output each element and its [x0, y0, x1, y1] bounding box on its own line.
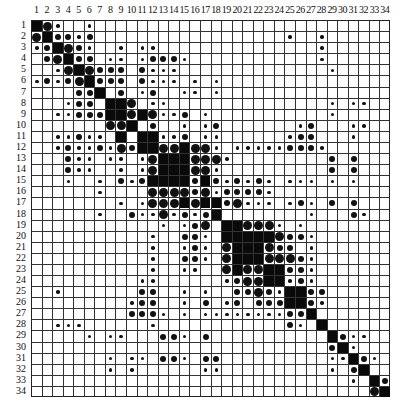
row-label: 17 [0, 196, 26, 207]
matrix-cell [190, 176, 200, 186]
matrix-cell [285, 287, 295, 297]
matrix-cell [159, 165, 169, 175]
matrix-cell [212, 88, 222, 98]
dot-marker-large [191, 166, 200, 175]
matrix-cell [169, 76, 179, 86]
matrix-cell [190, 198, 200, 208]
dot-marker-medium [203, 300, 209, 306]
matrix-cell [222, 265, 232, 275]
dot-marker-small [310, 180, 314, 184]
dot-marker-medium [213, 356, 219, 362]
dot-marker-small [204, 368, 208, 372]
matrix-cell [180, 132, 190, 142]
dot-marker-small [215, 168, 219, 172]
dot-marker-small [288, 35, 292, 39]
dot-marker-small [88, 157, 92, 161]
dot-marker-small [130, 357, 134, 361]
matrix-cell [148, 232, 158, 242]
matrix-cell [180, 254, 190, 264]
dot-marker-large [222, 243, 231, 252]
matrix-cell [201, 221, 211, 231]
matrix-cell [32, 43, 42, 53]
matrix-cell [169, 110, 179, 120]
dot-marker-large [254, 221, 263, 230]
matrix-cell [338, 331, 348, 341]
grid-line [32, 319, 389, 320]
matrix-cell [201, 354, 211, 364]
matrix-cell [212, 165, 222, 175]
matrix-cell [307, 198, 317, 208]
dot-marker-medium [329, 156, 335, 162]
dot-marker-small [257, 146, 261, 150]
column-label: 27 [306, 4, 317, 15]
matrix-cell [296, 232, 306, 242]
dot-marker-small [246, 146, 250, 150]
matrix-cell [275, 243, 285, 253]
matrix-cell [317, 43, 327, 53]
dot-marker-medium [287, 322, 293, 328]
matrix-cell [190, 265, 200, 275]
matrix-cell [64, 65, 74, 75]
dot-marker-small [267, 180, 271, 184]
dot-marker-small [56, 113, 60, 117]
dot-marker-large [265, 243, 274, 252]
matrix-cell [85, 132, 95, 142]
dot-marker-small [193, 91, 197, 95]
column-label: 20 [232, 4, 243, 15]
matrix-cell [106, 121, 116, 131]
matrix-cell [74, 65, 84, 75]
dot-marker-medium [150, 300, 156, 306]
matrix-cell [328, 99, 338, 109]
matrix-cell [159, 54, 169, 64]
matrix-cell [148, 76, 158, 86]
matrix-cell [307, 210, 317, 220]
matrix-cell [116, 43, 126, 53]
matrix-cell [359, 331, 369, 341]
dot-marker-small [215, 146, 219, 150]
column-label: 15 [179, 4, 190, 15]
dot-marker-small [267, 191, 271, 195]
dot-marker-medium [203, 356, 209, 362]
matrix-cell [233, 309, 243, 319]
dot-marker-small [109, 157, 113, 161]
matrix-cell [138, 354, 148, 364]
matrix-cell [349, 176, 359, 186]
dot-marker-medium [182, 256, 188, 262]
matrix-cell [159, 154, 169, 164]
dot-marker-small [77, 168, 81, 172]
dot-marker-small [141, 91, 145, 95]
matrix-cell [254, 176, 264, 186]
dot-marker-medium [150, 311, 156, 317]
matrix-cell [349, 354, 359, 364]
matrix-cell [159, 210, 169, 220]
matrix-cell [180, 88, 190, 98]
dot-marker-medium [118, 67, 124, 73]
matrix-cell [243, 176, 253, 186]
dot-marker-medium [329, 167, 335, 173]
matrix-cell [190, 88, 200, 98]
dot-marker-small [67, 135, 71, 139]
matrix-cell [254, 221, 264, 231]
dot-marker-medium [139, 178, 145, 184]
dot-marker-medium [308, 300, 314, 306]
matrix-cell [328, 198, 338, 208]
row-label: 8 [0, 97, 26, 108]
row-label: 6 [0, 74, 26, 85]
matrix-cell [328, 176, 338, 186]
matrix-cell [212, 198, 222, 208]
matrix-cell [243, 221, 253, 231]
matrix-cell [328, 165, 338, 175]
dot-marker-small [141, 279, 145, 283]
grid-line [32, 308, 389, 309]
dot-marker-small [56, 324, 60, 328]
matrix-cell [116, 88, 126, 98]
dot-marker-small [267, 313, 271, 317]
matrix-cell [296, 254, 306, 264]
dot-marker-small [109, 335, 113, 339]
dot-marker-small [352, 135, 356, 139]
dot-marker-medium [308, 289, 314, 295]
matrix-cell [95, 76, 105, 86]
dot-marker-small [141, 357, 145, 361]
dot-marker-small [119, 157, 123, 161]
matrix-cell [169, 132, 179, 142]
